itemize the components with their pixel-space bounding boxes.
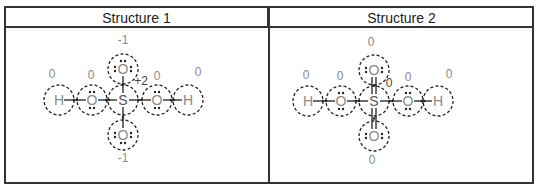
electron-dot [140,99,142,101]
atom-symbol-o: O [403,93,414,109]
electron-dot [373,84,375,86]
electron-dot [358,100,360,102]
atom-symbol-h: H [183,92,193,108]
formal-charge-label: 0 [446,67,453,81]
formal-charge-label: -1 [118,33,129,47]
electron-dot [365,137,367,139]
formal-charge-label: 0 [405,70,412,84]
electron-dot [114,70,116,72]
electron-dot [130,136,132,138]
electron-dot [73,99,75,101]
electron-dot [105,99,107,101]
atom-symbol-o: O [87,92,98,108]
electron-dot [108,99,110,101]
lewis-structures-diagram: SHOOOHO00-100-1+2SHOOOHO0000000 [0,0,540,190]
electron-dot [76,99,78,101]
electron-dot [365,67,367,69]
electron-dot [420,100,422,102]
atom-symbol-s: S [118,92,127,108]
electron-dot [322,100,324,102]
electron-dot [325,100,327,102]
atom-symbol-o: O [152,92,163,108]
electron-dot [130,66,132,68]
formal-charge-label: 0 [154,69,161,83]
electron-dot [381,133,383,135]
electron-dot [114,132,116,134]
atom-symbol-o: O [118,127,129,143]
electron-dot [365,133,367,135]
atom-symbol-o: O [336,93,347,109]
electron-dot [122,83,124,85]
formal-charge-label: 0 [303,68,310,82]
electron-dot [388,100,390,102]
formal-charge-label: 0 [368,35,375,49]
formal-charge-label: -1 [118,151,129,165]
atom-symbol-h: H [433,93,443,109]
formal-charge-label: 0 [195,65,202,79]
electron-dot [423,100,425,102]
electron-dot [137,99,139,101]
electron-dot [355,100,357,102]
structure-2: SHOOOHO0000000 [293,35,453,167]
formal-charge-label: 0 [337,69,344,83]
atom-symbol-s: S [369,93,378,109]
electron-dot [381,71,383,73]
formal-charge-label: 0 [88,68,95,82]
electron-dot [130,70,132,72]
electron-dot [114,66,116,68]
electron-dot [365,71,367,73]
atom-symbol-o: O [118,61,129,77]
atom-symbol-h: H [54,92,64,108]
electron-dot [381,67,383,69]
formal-charge-label: 0 [49,67,56,81]
electron-dot [114,136,116,138]
electron-dot [391,100,393,102]
atom-symbol-o: O [369,62,380,78]
electron-dot [122,116,124,118]
electron-dot [173,99,175,101]
electron-dot [130,132,132,134]
electron-dot [373,117,375,119]
atom-symbol-h: H [303,93,313,109]
formal-charge-label: 0 [369,153,376,167]
electron-dot [381,137,383,139]
structure-1: SHOOOHO00-100-1+2 [44,33,203,165]
central-formal-charge-label: 0 [386,76,393,90]
atom-symbol-o: O [369,128,380,144]
central-formal-charge-label: +2 [134,74,148,88]
electron-dot [170,99,172,101]
